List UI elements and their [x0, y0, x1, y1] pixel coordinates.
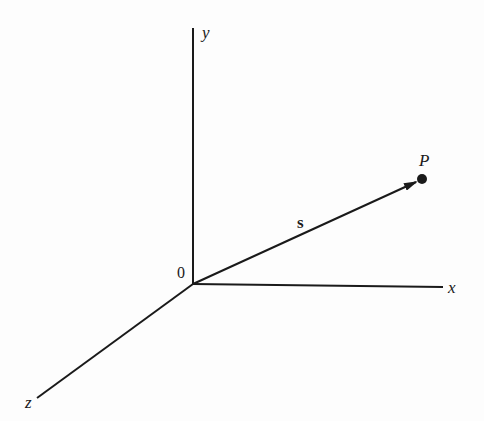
axes-drawing: [0, 0, 484, 421]
origin-label: 0: [177, 265, 185, 281]
y-axis-label: y: [202, 24, 210, 41]
x-axis-label: x: [448, 279, 456, 296]
point-p-label: P: [419, 152, 429, 169]
z-axis-line: [37, 284, 193, 398]
z-axis-label: z: [25, 394, 32, 411]
point-p-dot: [417, 174, 427, 184]
position-vector-s: [193, 182, 416, 284]
x-axis-line: [193, 284, 443, 287]
vector-s-label: s: [297, 214, 304, 231]
diagram-canvas: y x z 0 s P: [0, 0, 484, 421]
